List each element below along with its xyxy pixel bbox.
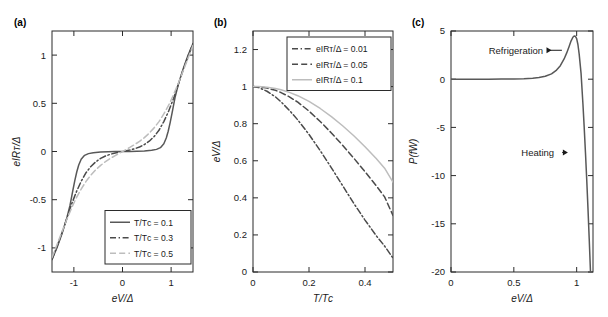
legend-label-1: T/Tᴄ = 0.3 <box>134 233 173 243</box>
series-line-0 <box>253 87 393 258</box>
x-tick-label: 0 <box>448 277 453 288</box>
y-tick-label: 0.4 <box>234 192 247 203</box>
y-tick-label: -1 <box>38 242 46 253</box>
x-tick-label: 0.4 <box>358 277 371 288</box>
y-tick-label: 0.8 <box>234 118 247 129</box>
x-axis-title: T/Tᴄ <box>313 293 333 304</box>
y-tick-label: 1.2 <box>234 44 247 55</box>
panel-b-canvas: (b)00.20.400.20.40.60.811.2T/TᴄeV/ΔeIRᴛ/… <box>203 0 403 317</box>
series-group <box>253 87 393 258</box>
y-tick-label: -15 <box>431 218 445 229</box>
y-tick-label: 0 <box>242 266 247 277</box>
y-tick-label: -10 <box>431 170 445 181</box>
panel-a: (a)-101-1-0.500.51eV/ΔeIRᴛ/ΔT/Tᴄ = 0.1T/… <box>0 0 203 317</box>
y-tick-label: 1 <box>242 81 247 92</box>
x-tick-label: 1 <box>168 277 173 288</box>
panel-tag: (c) <box>412 17 424 28</box>
x-tick-label: 0.5 <box>507 277 520 288</box>
annotation-label-0: Refrigeration <box>489 45 543 56</box>
x-tick-label: -1 <box>70 277 78 288</box>
panel-tag: (b) <box>214 17 227 28</box>
legend-label-2: T/Tᴄ = 0.5 <box>134 249 173 259</box>
panel-a-canvas: (a)-101-1-0.500.51eV/ΔeIRᴛ/ΔT/Tᴄ = 0.1T/… <box>0 0 203 317</box>
panel-tag: (a) <box>14 17 26 28</box>
annotation-label-1: Heating <box>521 147 554 158</box>
legend-label-0: T/Tᴄ = 0.1 <box>134 218 173 228</box>
y-tick-label: -0.5 <box>30 194 46 205</box>
y-axis-title: eIRᴛ/Δ <box>11 136 22 166</box>
legend-label-0: eIRᴛ/Δ = 0.01 <box>316 44 368 54</box>
annotation-arrow-head-0 <box>547 47 552 53</box>
y-axis-title: P(fW) <box>408 139 419 165</box>
legend: T/Tᴄ = 0.1T/Tᴄ = 0.3T/Tᴄ = 0.5 <box>105 211 191 265</box>
y-tick-label: 0.5 <box>33 98 46 109</box>
y-tick-label: 0.2 <box>234 229 247 240</box>
legend: eIRᴛ/Δ = 0.01eIRᴛ/Δ = 0.05eIRᴛ/Δ = 0.1 <box>287 37 391 91</box>
y-tick-label: 0 <box>41 146 46 157</box>
x-tick-label: 0.2 <box>302 277 315 288</box>
legend-label-2: eIRᴛ/Δ = 0.1 <box>316 75 363 85</box>
y-tick-label: 0 <box>440 74 445 85</box>
x-tick-label: 1 <box>574 277 579 288</box>
x-axis-title: eV/Δ <box>511 293 533 304</box>
y-tick-label: -20 <box>431 266 445 277</box>
y-tick-label: 1 <box>41 50 46 61</box>
y-tick-label: -5 <box>437 122 445 133</box>
panel-c: (c)00.51-20-15-10-505eV/ΔP(fW)Refrigerat… <box>403 0 608 317</box>
x-axis-title: eV/Δ <box>112 293 134 304</box>
y-axis-title: eV/Δ <box>211 140 222 162</box>
series-line-2 <box>253 87 393 182</box>
series-line-1 <box>253 87 393 216</box>
x-tick-label: 0 <box>120 277 125 288</box>
figure-root: (a)-101-1-0.500.51eV/ΔeIRᴛ/ΔT/Tᴄ = 0.1T/… <box>0 0 608 317</box>
legend-label-1: eIRᴛ/Δ = 0.05 <box>316 60 368 70</box>
annotation-arrow-head-1 <box>563 149 568 155</box>
y-tick-label: 0.6 <box>234 155 247 166</box>
panel-b: (b)00.20.400.20.40.60.811.2T/TᴄeV/ΔeIRᴛ/… <box>203 0 403 317</box>
x-tick-label: 0 <box>250 277 255 288</box>
panel-c-canvas: (c)00.51-20-15-10-505eV/ΔP(fW)Refrigerat… <box>403 0 608 317</box>
y-tick-label: 5 <box>440 25 445 36</box>
